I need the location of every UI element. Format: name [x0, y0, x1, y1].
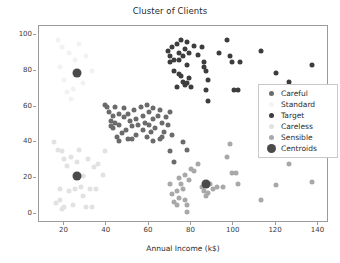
data-point	[102, 149, 107, 154]
legend-marker-icon	[262, 91, 280, 96]
data-point	[159, 135, 164, 140]
data-point	[60, 149, 65, 154]
data-point	[180, 140, 185, 145]
data-point	[180, 54, 185, 59]
data-point	[81, 174, 86, 179]
data-point	[206, 99, 211, 104]
x-tick-label: 140	[297, 222, 337, 234]
data-point	[185, 63, 190, 68]
data-point	[128, 118, 133, 123]
x-tick-label: 20	[43, 222, 83, 234]
data-point	[117, 122, 122, 127]
data-point	[134, 133, 139, 138]
y-tick-label: 20	[0, 173, 32, 181]
data-point	[183, 172, 188, 177]
data-point	[75, 160, 80, 165]
x-tick-label: 120	[255, 222, 295, 234]
data-point	[94, 186, 99, 191]
data-point	[81, 81, 86, 86]
data-point	[176, 176, 181, 181]
data-point	[168, 181, 173, 186]
data-point	[123, 127, 128, 132]
data-point	[153, 126, 158, 131]
data-point	[56, 38, 61, 43]
data-point	[202, 59, 207, 64]
y-tick-label: 60	[0, 102, 32, 110]
data-point	[286, 161, 291, 166]
data-point	[178, 38, 183, 43]
data-point	[227, 142, 232, 147]
y-tick-label: 80	[0, 66, 32, 74]
legend-item-standard[interactable]: Standard	[262, 99, 333, 110]
data-point	[274, 70, 279, 75]
data-point	[235, 181, 240, 186]
data-point	[155, 113, 160, 118]
x-tick-label: 100	[213, 222, 253, 234]
legend-marker-icon	[262, 102, 280, 107]
x-axis-label: Annual Income (k$)	[38, 244, 328, 253]
data-point	[100, 172, 105, 177]
legend-item-label: Standard	[280, 100, 315, 109]
data-point	[51, 140, 56, 145]
data-point	[164, 115, 169, 120]
data-point	[70, 86, 75, 91]
data-point	[185, 203, 190, 208]
data-point	[62, 204, 67, 209]
data-point	[60, 45, 65, 50]
data-point	[166, 122, 171, 127]
data-point	[89, 204, 94, 209]
data-point	[130, 136, 135, 141]
data-point	[73, 172, 82, 181]
data-point	[66, 50, 71, 55]
legend-item-careless[interactable]: Careless	[262, 121, 333, 132]
legend-item-label: Careless	[280, 122, 313, 131]
y-tick-label: 40	[0, 137, 32, 145]
data-point	[187, 50, 192, 55]
data-point	[206, 77, 211, 82]
data-point	[170, 133, 175, 138]
chart-legend: CarefulStandardTargetCarelessSensibleCen…	[258, 84, 338, 158]
data-point	[113, 104, 118, 109]
legend-item-centroids[interactable]: Centroids	[262, 143, 333, 154]
data-point	[187, 178, 192, 183]
x-tick-label: 80	[170, 222, 210, 234]
y-tick-label: 100	[0, 30, 32, 38]
data-point	[62, 156, 67, 161]
x-tick-label: 40	[86, 222, 126, 234]
data-point	[168, 149, 173, 154]
legend-item-target[interactable]: Target	[262, 110, 333, 121]
data-point	[89, 68, 94, 73]
data-point	[185, 147, 190, 152]
legend-item-sensible[interactable]: Sensible	[262, 132, 333, 143]
data-point	[144, 135, 149, 140]
data-point	[191, 43, 196, 48]
legend-item-careful[interactable]: Careful	[262, 88, 333, 99]
data-point	[96, 161, 101, 166]
data-point	[185, 210, 190, 215]
data-point	[174, 188, 179, 193]
data-point	[221, 185, 226, 190]
data-point	[195, 52, 200, 57]
data-point	[79, 185, 84, 190]
legend-item-label: Sensible	[280, 133, 313, 142]
data-point	[161, 129, 166, 134]
data-point	[159, 120, 164, 125]
data-point	[58, 186, 63, 191]
data-point	[157, 108, 162, 113]
data-point	[64, 90, 69, 95]
data-point	[85, 156, 90, 161]
data-point	[73, 68, 82, 77]
legend-item-label: Careful	[280, 89, 308, 98]
data-point	[147, 122, 152, 127]
data-point	[189, 84, 194, 89]
data-point	[70, 203, 75, 208]
data-point	[174, 203, 179, 208]
data-point	[183, 197, 188, 202]
data-point	[134, 117, 139, 122]
data-point	[77, 147, 82, 152]
data-point	[274, 183, 279, 188]
data-point	[259, 49, 264, 54]
data-point	[185, 40, 190, 45]
data-point	[199, 45, 204, 50]
data-point	[140, 127, 145, 132]
